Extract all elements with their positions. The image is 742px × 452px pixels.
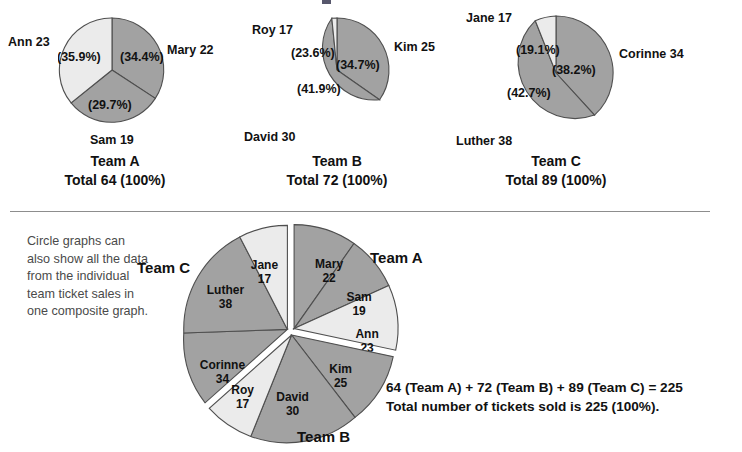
label-david: David 30	[244, 131, 295, 144]
pct-roy: (23.6%)	[291, 46, 335, 60]
composite-label-corinne-value: 34	[216, 372, 230, 386]
composite-label-jane-name: Jane	[251, 258, 279, 272]
composite-label-roy-name: Roy	[231, 383, 254, 397]
team-a-caption: Team A Total 64 (100%)	[40, 152, 190, 190]
explanatory-text: Circle graphs can also show all the data…	[27, 233, 149, 321]
pct-david: (41.9%)	[297, 82, 341, 96]
pct-luther: (42.7%)	[507, 86, 551, 100]
composite-label-corinne-name: Corinne	[200, 358, 246, 372]
team-c-caption-line2: Total 89 (100%)	[481, 171, 631, 190]
composite-team-b-tag: Team B	[297, 428, 350, 445]
label-sam: Sam 19	[90, 134, 134, 147]
team-c-caption: Team C Total 89 (100%)	[481, 152, 631, 190]
composite-label-luther-value: 38	[219, 297, 233, 311]
label-ann: Ann 23	[8, 36, 50, 49]
pct-kim: (34.7%)	[336, 58, 380, 72]
scan-artifact	[322, 0, 331, 4]
team-a-pie-svg: (34.4%) (29.7%) (35.9%)	[58, 14, 166, 126]
team-c-pie-svg: (38.2%) (42.7%) (19.1%)	[496, 12, 616, 134]
team-a-caption-line2: Total 64 (100%)	[40, 171, 190, 190]
label-kim: Kim 25	[394, 41, 435, 54]
team-a-pie-block: (34.4%) (29.7%) (35.9%)	[58, 14, 166, 126]
pct-ann: (35.9%)	[58, 50, 101, 64]
team-a-caption-line1: Team A	[40, 152, 190, 171]
composite-label-david-value: 30	[286, 404, 300, 418]
figure-root: (34.4%) (29.7%) (35.9%) Mary 22 Ann 23 S…	[0, 0, 742, 452]
composite-label-roy-value: 17	[236, 397, 250, 411]
summary-block: 64 (Team A) + 72 (Team B) + 89 (Team C) …	[386, 378, 683, 416]
composite-label-jane-value: 17	[258, 272, 272, 286]
pct-jane: (19.1%)	[516, 43, 560, 57]
composite-label-sam-name: Sam	[346, 290, 371, 304]
summary-line-2: Total number of tickets sold is 225 (100…	[386, 397, 683, 416]
composite-label-luther-name: Luther	[207, 283, 245, 297]
composite-label-kim-name: Kim	[329, 362, 352, 376]
composite-team-a-group: Mary 22 Sam 19 Ann 23	[294, 225, 398, 355]
pct-sam: (29.7%)	[88, 98, 132, 112]
summary-line-1: 64 (Team A) + 72 (Team B) + 89 (Team C) …	[386, 378, 683, 397]
pct-mary: (34.4%)	[120, 50, 164, 64]
composite-label-david-name: David	[276, 390, 309, 404]
composite-team-c-tag: Team C	[137, 259, 190, 276]
composite-label-sam-value: 19	[352, 304, 366, 318]
label-jane: Jane 17	[466, 12, 512, 25]
label-mary: Mary 22	[167, 44, 214, 57]
team-b-pie-svg: (34.7%) (41.9%) (23.6%)	[283, 14, 391, 126]
composite-team-a-tag: Team A	[370, 249, 423, 266]
label-luther: Luther 38	[456, 135, 512, 148]
composite-label-mary-name: Mary	[315, 257, 343, 271]
composite-label-kim-value: 25	[334, 376, 348, 390]
team-c-caption-line1: Team C	[481, 152, 631, 171]
team-b-caption-line1: Team B	[262, 152, 412, 171]
composite-label-mary-value: 22	[322, 271, 336, 285]
team-b-caption-line2: Total 72 (100%)	[262, 171, 412, 190]
label-corinne: Corinne 34	[619, 48, 684, 61]
label-roy: Roy 17	[252, 24, 293, 37]
pct-corinne: (38.2%)	[552, 63, 596, 77]
team-b-pie-block: (34.7%) (41.9%) (23.6%)	[283, 14, 391, 126]
team-b-caption: Team B Total 72 (100%)	[262, 152, 412, 190]
team-c-pie-block: (38.2%) (42.7%) (19.1%)	[496, 12, 616, 134]
section-divider	[10, 211, 710, 212]
composite-label-ann-name: Ann	[355, 327, 378, 341]
